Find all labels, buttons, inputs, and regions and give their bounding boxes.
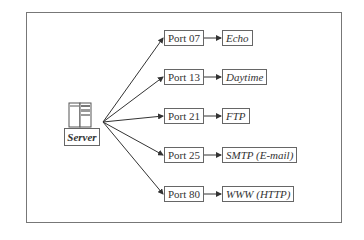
service-box: Echo <box>222 30 253 46</box>
server-icon <box>68 102 94 128</box>
service-box: FTP <box>222 108 250 124</box>
service-box: WWW (HTTP) <box>222 186 294 202</box>
port-box: Port 21 <box>164 108 204 124</box>
port-box: Port 07 <box>164 30 204 46</box>
port-box: Port 80 <box>164 186 204 202</box>
service-box: Daytime <box>222 69 267 85</box>
port-box: Port 25 <box>164 147 204 163</box>
service-box: SMTP (E-mail) <box>222 147 297 163</box>
port-box: Port 13 <box>164 69 204 85</box>
server-label: Server <box>64 128 100 146</box>
